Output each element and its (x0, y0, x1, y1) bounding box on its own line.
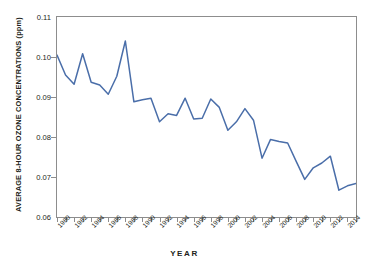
y-axis-tick-label: 0.11 (25, 13, 51, 22)
y-axis-tick-label: 0.09 (25, 93, 51, 102)
y-axis-tick-mark (51, 97, 56, 98)
y-axis-tick-label: 0.08 (25, 133, 51, 142)
plot-area (56, 16, 357, 218)
y-axis-tick-mark (51, 57, 56, 58)
y-axis-tick-label: 0.06 (25, 213, 51, 222)
y-axis-tick-mark (51, 137, 56, 138)
y-axis-tick-mark (51, 177, 56, 178)
y-axis-tick-label-group: 0.060.070.080.090.100.11 (22, 0, 51, 267)
y-axis-tick-label: 0.10 (25, 53, 51, 62)
x-axis-title: YEAR (0, 249, 369, 258)
ozone-trend-chart: AVERAGE 8-HOUR OZONE CONCENTRATIONS (ppm… (0, 0, 369, 267)
y-axis-tick-label: 0.07 (25, 173, 51, 182)
ozone-line-series (57, 17, 356, 217)
